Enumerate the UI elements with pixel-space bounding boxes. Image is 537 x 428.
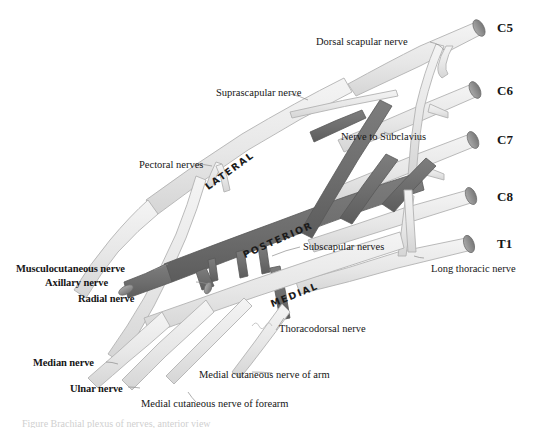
root-trunk-c5 (348, 22, 482, 96)
figure-caption: Figure Brachial plexus of nerves, anteri… (22, 419, 211, 428)
root-label-c5: C5 (497, 21, 513, 35)
label-thoracodorsal-nerve: Thoracodorsal nerve (279, 323, 366, 334)
root-label-c7: C7 (497, 133, 513, 147)
label-medial-cutaneous-nerve-of-forearm: Medial cutaneous nerve of forearm (141, 398, 289, 409)
root-label-c8: C8 (497, 190, 513, 204)
label-subscapular-nerves: Subscapular nerves (303, 241, 384, 252)
label-long-thoracic-nerve: Long thoracic nerve (431, 263, 516, 274)
figure-caption-strip: Figure Brachial plexus of nerves, anteri… (0, 419, 537, 428)
label-ulnar-nerve: Ulnar nerve (70, 383, 123, 394)
lateral-cord-band (146, 78, 352, 214)
label-axillary-nerve: Axillary nerve (45, 277, 108, 288)
brachial-plexus-figure: C5 C6 C7 C8 T1 Dorsal scapular nerve Sup… (0, 0, 537, 428)
label-radial-nerve: Radial nerve (78, 293, 134, 304)
label-pectoral-nerves: Pectoral nerves (139, 159, 203, 170)
label-median-nerve: Median nerve (33, 357, 94, 368)
label-dorsal-scapular-nerve: Dorsal scapular nerve (316, 36, 408, 47)
label-suprascapular-nerve: Suprascapular nerve (216, 87, 301, 98)
label-nerve-to-subclavius: Nerve to Subclavius (341, 131, 426, 142)
root-label-c6: C6 (497, 84, 513, 98)
leader-subscapular (272, 247, 300, 256)
root-label-t1: T1 (497, 237, 513, 251)
label-medial-cutaneous-nerve-of-arm: Medial cutaneous nerve of arm (199, 369, 330, 380)
label-musculocutaneous-nerve: Musculocutaneous nerve (16, 263, 125, 274)
